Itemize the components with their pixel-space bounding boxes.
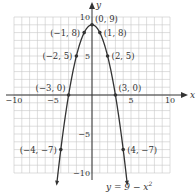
point-marker <box>121 148 125 152</box>
point-label: (3, 0) <box>118 83 141 93</box>
point-marker <box>106 54 110 58</box>
y-tick-label: −5 <box>78 130 90 139</box>
y-tick-label: 5 <box>85 52 90 61</box>
y-tick-label: 10 <box>80 13 90 22</box>
point-marker <box>59 148 63 152</box>
point-label: (4, −7) <box>127 145 157 155</box>
point-label: (−4, −7) <box>20 145 57 155</box>
x-axis-arrow-icon <box>181 92 188 98</box>
equation-text: y = 9 − x <box>105 182 148 192</box>
point-label: (−2, 5) <box>42 51 72 61</box>
parabola-chart: x y −10−5510105−5−10 (0, 9)(−1, 8)(1, 8)… <box>0 0 196 194</box>
point-marker <box>98 31 102 35</box>
point-label: (1, 8) <box>104 28 127 38</box>
y-axis-arrow-icon <box>89 2 95 9</box>
x-tick-label: −10 <box>6 96 23 105</box>
point-marker <box>114 93 118 97</box>
point-marker <box>90 23 94 27</box>
point-marker <box>82 31 86 35</box>
y-axis-label: y <box>95 0 102 10</box>
x-tick-label: 5 <box>128 96 133 105</box>
point-marker <box>75 54 79 58</box>
y-tick-label: −10 <box>73 169 90 178</box>
point-label: (0, 9) <box>95 14 118 24</box>
equation-label: y = 9 − x2 <box>105 180 152 192</box>
point-label: (2, 5) <box>112 51 135 61</box>
point-label: (−1, 8) <box>50 28 80 38</box>
point-marker <box>67 93 71 97</box>
curve-arrow-icon <box>55 181 59 186</box>
x-tick-label: −5 <box>47 96 59 105</box>
equation-exponent: 2 <box>147 180 152 187</box>
x-tick-label: 10 <box>165 96 175 105</box>
point-label: (−3, 0) <box>36 83 66 93</box>
x-axis-label: x <box>190 90 195 100</box>
